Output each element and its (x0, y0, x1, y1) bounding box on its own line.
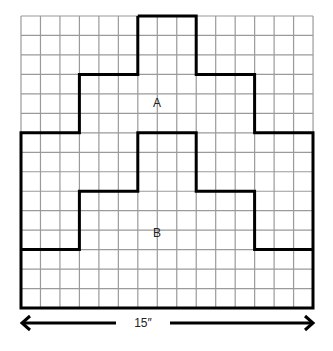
grid-lines (21, 16, 313, 308)
region-b-label: B (153, 226, 161, 240)
dimension-arrow (22, 316, 313, 330)
outer-outline (21, 16, 313, 308)
stepped-grid-diagram (0, 0, 333, 351)
region-a-label: A (153, 96, 161, 110)
dimension-label: 15″ (130, 316, 156, 330)
